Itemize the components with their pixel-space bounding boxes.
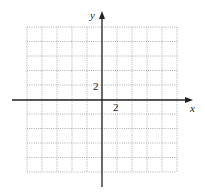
y-axis [99, 11, 105, 187]
coordinate-plane: x y 2 2 [0, 0, 205, 196]
y-axis-label: y [89, 9, 95, 21]
y-tick-label: 2 [93, 80, 99, 92]
x-axis-label: x [189, 102, 195, 114]
y-axis-arrow-icon [99, 11, 105, 19]
x-tick-label: 2 [113, 101, 119, 113]
